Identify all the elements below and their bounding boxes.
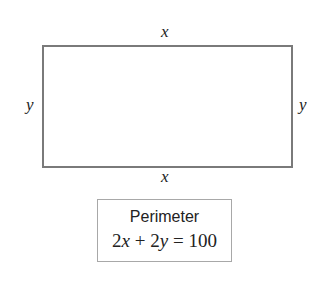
coefficient: 2	[150, 230, 160, 251]
variable-x: x	[122, 230, 130, 251]
perimeter-equation: 2x + 2y = 100	[98, 230, 231, 252]
right-side-label: y	[299, 96, 307, 113]
coefficient: 2	[112, 230, 122, 251]
left-side-label: y	[26, 96, 34, 113]
variable-y: y	[160, 230, 168, 251]
perimeter-box: Perimeter 2x + 2y = 100	[97, 199, 232, 262]
perimeter-title: Perimeter	[98, 208, 231, 226]
rectangle	[42, 45, 293, 168]
equals-rhs: = 100	[168, 230, 217, 251]
plus-sign: +	[130, 230, 150, 251]
bottom-side-label: x	[161, 168, 169, 185]
top-side-label: x	[161, 23, 169, 40]
